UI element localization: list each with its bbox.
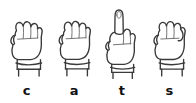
sign-cell-a: a — [52, 0, 97, 103]
asl-fingerspelling-figure: c a — [0, 0, 196, 103]
asl-hand-c-icon — [4, 8, 49, 82]
sign-letter-label-t: t — [119, 84, 125, 97]
sign-letter-label-s: s — [166, 84, 174, 97]
sign-row: c a — [0, 0, 196, 103]
sign-cell-c: c — [4, 0, 49, 103]
sign-letter-label-a: a — [70, 84, 79, 97]
asl-hand-s-icon — [147, 8, 192, 82]
asl-hand-a-icon — [52, 8, 97, 82]
sign-cell-s: s — [147, 0, 192, 103]
sign-cell-t: t — [99, 0, 144, 103]
sign-letter-label-c: c — [23, 84, 31, 97]
asl-hand-t-icon — [99, 8, 144, 82]
